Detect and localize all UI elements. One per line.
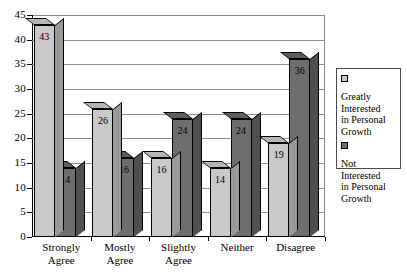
y-axis-tick bbox=[27, 15, 32, 16]
legend-label: GreatlyInterestedin PersonalGrowth bbox=[341, 91, 391, 137]
x-axis-label-line: Agree bbox=[32, 254, 91, 267]
bar-side-face bbox=[252, 112, 261, 237]
bar: 19 bbox=[268, 143, 289, 237]
y-axis-tick bbox=[27, 64, 32, 65]
bar-side-face bbox=[193, 112, 202, 237]
y-axis-tick-label: 15 bbox=[15, 157, 26, 168]
bar: 43 bbox=[34, 25, 55, 237]
bar: 26 bbox=[92, 109, 113, 237]
bar-value-label: 16 bbox=[151, 165, 172, 175]
x-axis-label-line: Mostly bbox=[91, 241, 150, 254]
y-axis-tick bbox=[27, 89, 32, 90]
y-axis-tick-label: 40 bbox=[15, 34, 26, 45]
legend-entry[interactable]: GreatlyInterestedin PersonalGrowth bbox=[341, 73, 397, 137]
x-axis-category-label: SlightlyAgree bbox=[149, 241, 208, 267]
y-axis-tick bbox=[27, 114, 32, 115]
gridline bbox=[32, 64, 325, 65]
bar-value-label: 14 bbox=[210, 175, 231, 185]
bar-top-face bbox=[163, 112, 193, 119]
x-axis-label-line: Disagree bbox=[266, 241, 325, 254]
y-axis-tick-label: 35 bbox=[15, 58, 26, 69]
bar-top-face bbox=[25, 18, 55, 25]
bar-top-face bbox=[222, 112, 252, 119]
bar: 16 bbox=[151, 158, 172, 237]
legend-label-line: in Personal bbox=[341, 181, 391, 193]
x-axis-category-label: StronglyAgree bbox=[32, 241, 91, 267]
legend-label-line: Growth bbox=[341, 193, 391, 205]
bar-value-label: 26 bbox=[92, 116, 113, 126]
bar-top-face bbox=[280, 52, 310, 59]
bar-top-face bbox=[83, 102, 113, 109]
plot-area: 43142616162414241936 bbox=[32, 15, 325, 237]
x-axis-tick bbox=[325, 237, 326, 241]
plot-frame-right bbox=[324, 15, 325, 237]
y-axis-labels: 051015202530354045 bbox=[0, 15, 26, 237]
x-axis-label-line: Agree bbox=[149, 254, 208, 267]
legend-entry[interactable]: NotInterestedin PersonalGrowth bbox=[341, 140, 397, 204]
plot-frame-top bbox=[32, 15, 325, 16]
legend: GreatlyInterestedin PersonalGrowthNotInt… bbox=[336, 68, 401, 169]
legend-swatch-icon bbox=[341, 142, 348, 149]
bar: 14 bbox=[210, 168, 231, 237]
bar-value-label: 24 bbox=[231, 126, 252, 136]
bar-side-face bbox=[55, 18, 64, 237]
bar-top-face bbox=[259, 136, 289, 143]
bar-side-face bbox=[310, 52, 319, 237]
y-axis-tick-label: 25 bbox=[15, 108, 26, 119]
y-axis-tick-label: 10 bbox=[15, 182, 26, 193]
y-axis-tick bbox=[27, 40, 32, 41]
bar-front-face bbox=[34, 25, 55, 237]
bar-value-label: 43 bbox=[34, 32, 55, 42]
legend-label-line: Growth bbox=[341, 126, 391, 138]
legend-label-line: in Personal bbox=[341, 114, 391, 126]
y-axis-tick-label: 45 bbox=[15, 9, 26, 20]
bar-side-face bbox=[172, 151, 181, 237]
x-axis-category-label: Neither bbox=[208, 241, 267, 254]
legend-label-line: Interested bbox=[341, 103, 391, 115]
y-axis-tick bbox=[27, 237, 32, 238]
y-axis-tick-label: 30 bbox=[15, 83, 26, 94]
x-axis-label-line: Agree bbox=[91, 254, 150, 267]
legend-label-line: Greatly bbox=[341, 91, 391, 103]
bar-chart: 051015202530354045 43142616162414241936 … bbox=[0, 0, 407, 280]
bar-value-label: 19 bbox=[268, 150, 289, 160]
legend-label-line: Not bbox=[341, 158, 391, 170]
bar-front-face bbox=[92, 109, 113, 237]
gridline bbox=[32, 40, 325, 41]
legend-label-line: Interested bbox=[341, 170, 391, 182]
y-axis-tick-label: 20 bbox=[15, 132, 26, 143]
legend-label: NotInterestedin PersonalGrowth bbox=[341, 158, 391, 204]
y-axis-tick bbox=[27, 163, 32, 164]
y-axis-tick bbox=[27, 138, 32, 139]
y-axis-tick-label: 5 bbox=[20, 206, 26, 217]
bar-side-face bbox=[76, 161, 85, 237]
x-axis-labels: StronglyAgreeMostlyAgreeSlightlyAgreeNei… bbox=[32, 241, 325, 279]
x-axis-label-line: Slightly bbox=[149, 241, 208, 254]
bar-top-face bbox=[201, 161, 231, 168]
y-axis-tick-label: 0 bbox=[20, 231, 26, 242]
legend-swatch-icon bbox=[341, 75, 348, 82]
gridline bbox=[32, 89, 325, 90]
bar-side-face bbox=[113, 102, 122, 237]
bar-value-label: 36 bbox=[289, 66, 310, 76]
bar-side-face bbox=[134, 151, 143, 237]
y-axis-tick bbox=[27, 212, 32, 213]
x-axis-category-label: MostlyAgree bbox=[91, 241, 150, 267]
bar-top-face bbox=[142, 151, 172, 158]
x-axis-label-line: Neither bbox=[208, 241, 267, 254]
bar-value-label: 24 bbox=[172, 126, 193, 136]
bar-side-face bbox=[289, 136, 298, 237]
y-axis-tick bbox=[27, 188, 32, 189]
x-axis-category-label: Disagree bbox=[266, 241, 325, 254]
bar-side-face bbox=[231, 161, 240, 237]
x-axis-label-line: Strongly bbox=[32, 241, 91, 254]
